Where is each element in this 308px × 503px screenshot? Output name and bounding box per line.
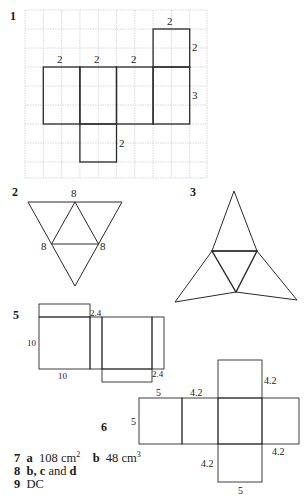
question-5-number: 5 [13,308,19,323]
fig1-label: 2 [131,53,137,65]
answer-7: 7 a 108 cm2 b 48 cm3 [14,448,141,465]
fig1-label: 2 [119,137,125,149]
fig1-label: 2 [57,53,63,65]
question-6-number: 6 [101,420,107,435]
fig6-label: 5 [131,416,136,427]
figure-5-cuboid-net [39,304,164,382]
figure-3-star-net [175,191,297,302]
answer-9: 9 DC [14,478,141,491]
fig6-label: 4.2 [264,375,277,386]
question-1-number: 1 [10,9,16,24]
fig1-label: 2 [167,15,173,27]
fig1-label: 3 [192,89,198,101]
fig5-label-strip: 2.4 [152,369,164,379]
fig6-label: 4.2 [201,458,214,469]
question-3-number: 3 [190,185,196,200]
fig5-label-bottom: 10 [58,371,68,381]
fig2-label: 8 [71,187,77,199]
figure-2-triangle-net [28,202,122,286]
fig6-label: 4.2 [190,387,203,398]
fig6-label: 4.2 [272,446,285,457]
fig2-label: 8 [100,240,106,252]
fig6-label: 5 [156,387,161,398]
question-2-number: 2 [12,185,18,200]
fig2-label: 8 [41,240,47,252]
fig5-label-tab: 2.4 [90,308,102,318]
fig5-label-side: 10 [27,338,37,348]
figure-1-grid-net: 2 2 2 2 2 3 2 8 8 8 2.4 10 10 2.4 [0,0,308,503]
fig1-label: 2 [192,41,198,53]
answers-list: 7 a 108 cm2 b 48 cm3 8 b, c and d 9 DC [14,448,141,491]
fig1-label: 2 [94,53,100,65]
fig6-label: 5 [238,485,243,496]
figure-6-prism-net [139,360,299,482]
